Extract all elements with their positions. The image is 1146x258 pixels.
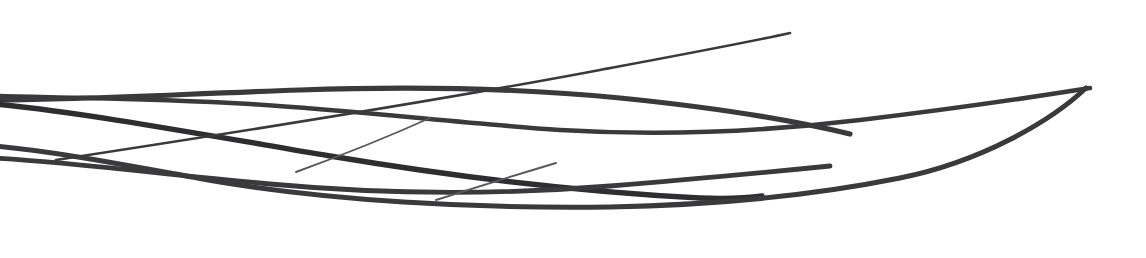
abstract-curves-illustration [0, 0, 1146, 258]
artwork-canvas [0, 0, 1146, 258]
